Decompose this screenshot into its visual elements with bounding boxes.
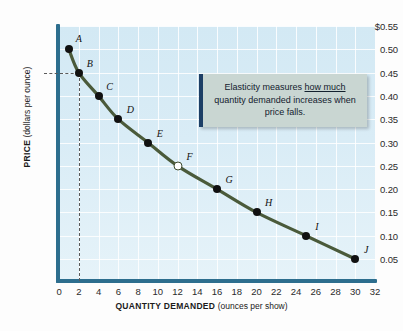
gridline-horizontal <box>60 259 375 260</box>
x-tick-label: 18 <box>232 286 242 297</box>
y-axis-label-unit: (dollars per ounce) <box>22 67 32 138</box>
data-point-label-b: B <box>87 57 93 68</box>
callout-text-underlined: how much <box>305 82 346 92</box>
callout-text-before: Elasticity measures <box>224 82 304 92</box>
gridline-vertical <box>99 26 100 281</box>
data-point-marker-b <box>75 69 83 77</box>
data-point-marker-g <box>213 185 221 193</box>
y-tick-label: 0.10 <box>347 230 403 241</box>
gridline-horizontal <box>60 143 375 144</box>
data-point-label-a: A <box>76 33 82 44</box>
data-point-marker-a <box>65 45 73 53</box>
data-point-marker-c <box>95 92 103 100</box>
x-tick-label: 10 <box>153 286 163 297</box>
gridline-vertical <box>178 26 179 281</box>
data-point-label-e: E <box>157 127 163 138</box>
y-tick-label: 0.50 <box>347 44 403 55</box>
x-tick-label: 4 <box>96 286 101 297</box>
x-tick-label: 26 <box>311 286 321 297</box>
x-tick-label: 16 <box>212 286 222 297</box>
y-tick-label: 0.20 <box>347 184 403 195</box>
guide-line-horizontal <box>44 73 79 74</box>
x-tick-label: 8 <box>135 286 140 297</box>
gridline-horizontal <box>60 166 375 167</box>
gridline-vertical <box>257 26 258 281</box>
x-axis-line <box>56 279 377 283</box>
gridline-vertical <box>237 26 238 281</box>
gridline-vertical <box>276 26 277 281</box>
data-point-marker-i <box>302 232 310 240</box>
x-axis-label-unit: (ounces per show) <box>218 301 288 311</box>
gridline-horizontal <box>60 212 375 213</box>
gridline-horizontal <box>60 49 375 50</box>
gridline-horizontal <box>60 26 375 27</box>
data-point-label-h: H <box>265 197 272 208</box>
data-point-marker-h <box>253 208 261 216</box>
x-tick-label: 12 <box>172 286 182 297</box>
y-axis-label: PRICE (dollars per ounce) <box>22 47 32 187</box>
x-tick-label: 30 <box>350 286 360 297</box>
data-point-label-j: J <box>364 244 368 255</box>
gridline-vertical <box>118 26 119 281</box>
x-tick-label: 6 <box>116 286 121 297</box>
data-point-label-f: F <box>186 150 192 161</box>
x-axis-label: QUANTITY DEMANDED (ounces per show) <box>0 301 403 311</box>
plot-area <box>60 26 375 281</box>
y-tick-label: 0.25 <box>347 160 403 171</box>
gridline-vertical <box>217 26 218 281</box>
data-point-label-g: G <box>225 174 232 185</box>
data-point-label-d: D <box>127 104 134 115</box>
gridline-vertical <box>316 26 317 281</box>
data-point-marker-j <box>351 255 359 263</box>
x-axis-label-bold: QUANTITY DEMANDED <box>115 301 215 311</box>
x-tick-label: 22 <box>271 286 281 297</box>
data-point-marker-f <box>173 161 182 170</box>
gridline-vertical <box>158 26 159 281</box>
gridline-vertical <box>355 26 356 281</box>
x-tick-label: 2 <box>76 286 81 297</box>
y-tick-label: $0.55 <box>347 21 403 32</box>
x-tick-label: 14 <box>192 286 202 297</box>
y-tick-label: 0.30 <box>347 137 403 148</box>
x-tick-label: 0 <box>56 286 61 297</box>
data-point-marker-d <box>114 115 122 123</box>
data-point-label-i: I <box>315 220 318 231</box>
x-tick-label: 20 <box>251 286 261 297</box>
y-tick-label: 0.15 <box>347 207 403 218</box>
gridline-vertical <box>296 26 297 281</box>
chart-figure: $0.550.500.450.400.350.300.250.200.150.1… <box>0 0 403 331</box>
guide-line-vertical <box>79 73 80 281</box>
gridline-vertical <box>138 26 139 281</box>
x-tick-label: 24 <box>291 286 301 297</box>
data-point-marker-e <box>144 139 152 147</box>
y-axis-label-bold: PRICE <box>22 140 32 167</box>
gridline-vertical <box>197 26 198 281</box>
elasticity-callout: Elasticity measures how much quantity de… <box>199 74 367 127</box>
data-point-label-c: C <box>106 80 113 91</box>
x-tick-label: 32 <box>370 286 380 297</box>
callout-text-after: quantity demanded increases when price f… <box>214 95 356 118</box>
x-tick-label: 28 <box>330 286 340 297</box>
gridline-horizontal <box>60 236 375 237</box>
gridline-vertical <box>336 26 337 281</box>
y-axis-line <box>56 24 60 283</box>
